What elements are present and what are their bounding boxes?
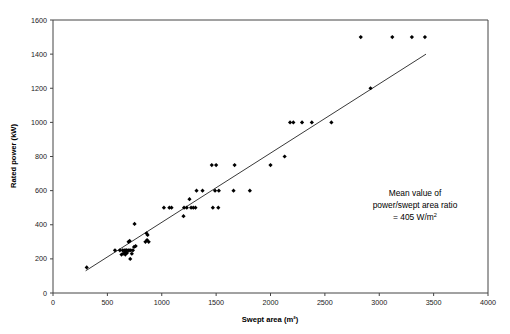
annotation-line-3: = 405 W/m2 — [393, 212, 437, 222]
x-tick-label: 3000 — [371, 298, 387, 307]
scatter-plot: 02004006008001000120014001600 0500100015… — [0, 0, 510, 334]
data-point-marker — [390, 35, 394, 39]
y-tick-label: 800 — [35, 152, 47, 161]
axis-lines — [53, 20, 488, 293]
frame-top-right — [53, 20, 488, 293]
x-tick-label: 3500 — [426, 298, 442, 307]
y-axis-ticks: 02004006008001000120014001600 — [31, 16, 53, 298]
data-point-marker — [368, 86, 372, 90]
data-point-marker — [128, 257, 132, 261]
x-tick-label: 2500 — [317, 298, 333, 307]
annotation-line-2: power/swept area ratio — [373, 200, 458, 210]
plot-frame — [53, 20, 488, 293]
data-point-marker — [194, 189, 198, 193]
x-tick-label: 1500 — [208, 298, 224, 307]
chart-figure: 02004006008001000120014001600 0500100015… — [0, 0, 510, 334]
annotation-line-3-superscript: 2 — [434, 212, 437, 218]
data-point-marker — [187, 197, 191, 201]
x-tick-label: 1000 — [154, 298, 170, 307]
data-point-marker — [217, 189, 221, 193]
y-axis-title: Rated power (kW) — [9, 123, 18, 188]
regression-line — [86, 54, 426, 271]
data-point-marker — [248, 189, 252, 193]
data-point-marker — [132, 222, 136, 226]
x-tick-label: 2000 — [263, 298, 279, 307]
data-point-marker — [162, 206, 166, 210]
y-tick-label: 1000 — [31, 118, 47, 127]
y-tick-label: 1600 — [31, 16, 47, 25]
y-tick-label: 1400 — [31, 50, 47, 59]
data-point-marker — [211, 206, 215, 210]
data-point-marker — [329, 120, 333, 124]
x-tick-label: 4000 — [480, 298, 496, 307]
data-point-marker — [214, 163, 218, 167]
data-point-marker — [310, 120, 314, 124]
data-point-marker — [268, 163, 272, 167]
data-point-marker — [300, 120, 304, 124]
x-axis-title: Swept area (m²) — [242, 315, 299, 324]
x-axis-ticks: 05001000150020002500300035004000 — [51, 293, 496, 307]
y-tick-label: 1200 — [31, 84, 47, 93]
data-point-marker — [130, 252, 134, 256]
data-point-marker — [410, 35, 414, 39]
y-tick-label: 400 — [35, 220, 47, 229]
annotation-line-3-text: = 405 W/m — [393, 212, 434, 222]
data-point-marker — [200, 189, 204, 193]
x-tick-label: 500 — [101, 298, 113, 307]
data-point-marker — [359, 35, 363, 39]
data-point-marker — [423, 35, 427, 39]
data-point-marker — [210, 163, 214, 167]
data-point-marker — [193, 206, 197, 210]
data-points — [85, 35, 427, 270]
y-tick-label: 0 — [43, 289, 47, 298]
data-point-marker — [283, 154, 287, 158]
data-point-marker — [233, 163, 237, 167]
data-point-marker — [231, 189, 235, 193]
data-point-marker — [113, 248, 117, 252]
y-tick-label: 200 — [35, 254, 47, 263]
data-point-marker — [185, 206, 189, 210]
trend-line — [86, 54, 426, 271]
y-tick-label: 600 — [35, 186, 47, 195]
x-tick-label: 0 — [51, 298, 55, 307]
annotation-line-1: Mean value of — [389, 188, 442, 198]
data-point-marker — [131, 248, 135, 252]
data-point-marker — [181, 214, 185, 218]
data-point-marker — [291, 120, 295, 124]
mean-value-annotation: Mean value of power/swept area ratio = 4… — [373, 188, 458, 222]
data-point-marker — [169, 206, 173, 210]
data-point-marker — [216, 206, 220, 210]
